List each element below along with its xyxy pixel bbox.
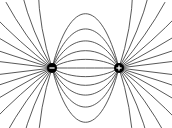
field-line-connecting: [52, 68, 119, 107]
field-line-outer: [119, 68, 172, 93]
field-line-outer: [22, 68, 52, 128]
field-line-connecting: [52, 41, 119, 68]
dipole-field-diagram: [0, 0, 172, 128]
field-line-outer: [119, 43, 172, 68]
field-line-outer: [6, 2, 52, 68]
field-line-outer: [119, 0, 149, 68]
field-line-outer: [38, 0, 52, 68]
field-line-outer: [119, 68, 149, 128]
field-line-outer: [119, 0, 133, 68]
field-line-connecting: [52, 59, 119, 68]
field-line-outer: [119, 2, 165, 68]
field-lines: [0, 0, 172, 128]
field-line-connecting: [52, 29, 119, 68]
field-line-connecting: [52, 68, 119, 77]
negative-charge: [47, 63, 57, 73]
field-line-outer: [22, 0, 52, 68]
positive-charge: [114, 63, 124, 73]
field-line-connecting: [52, 68, 119, 95]
